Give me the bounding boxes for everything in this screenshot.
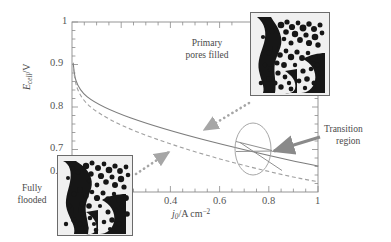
annotation-transition-region: Transition region	[324, 124, 388, 148]
y-tick-label-1: 0.9	[50, 58, 63, 69]
annotation-fully-flooded-line-1: Fully	[6, 183, 58, 195]
annotation-primary-pores-line-2: pores filled	[175, 50, 239, 62]
y-axis-title-subscript: cell	[26, 74, 34, 84]
x-tick-label-3: 0.8	[262, 196, 275, 207]
y-tick-label-2: 0.8	[50, 101, 63, 112]
annotation-fully-flooded-line-2: flooded	[6, 195, 58, 207]
annotation-transition-line-2: region	[324, 136, 388, 148]
x-axis-title-exponent: −2	[203, 208, 211, 216]
y-axis-title: Ecell/V	[22, 64, 34, 90]
leader-arrow-fully-flooded	[136, 152, 169, 174]
x-tick-label-1: 0.4	[164, 196, 177, 207]
inset-primary-pores-graphic	[251, 13, 330, 96]
inset-image-fully-flooded	[57, 155, 133, 236]
figure-container: 0.2 0.4 0.6 0.8 1 1 0.9 0.8 0.7 0.6 Ecel…	[0, 0, 391, 242]
y-axis-title-unit: /V	[21, 64, 32, 74]
annotation-fully-flooded: Fully flooded	[6, 183, 58, 207]
x-axis-title: j0/A cm−2	[172, 209, 210, 221]
annotation-primary-pores-line-1: Primary	[175, 38, 239, 50]
annotation-transition-line-1: Transition	[324, 124, 388, 136]
y-axis-title-symbol: E	[21, 84, 32, 90]
x-axis-title-unit: /A cm	[178, 208, 202, 219]
x-tick-label-4: 1	[315, 196, 320, 207]
inset-fully-flooded-graphic	[58, 156, 133, 236]
y-tick-label-0: 1	[62, 16, 67, 27]
leader-arrow-primary-pores	[204, 103, 249, 130]
annotation-primary-pores-filled: Primary pores filled	[175, 38, 239, 62]
leader-arrow-transition-region	[274, 137, 320, 151]
inset-image-primary-pores-filled	[250, 12, 330, 96]
y-tick-label-3: 0.7	[50, 143, 63, 154]
x-tick-label-2: 0.6	[213, 196, 226, 207]
